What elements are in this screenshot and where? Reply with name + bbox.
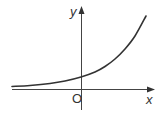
y-axis-label: y	[69, 4, 78, 19]
origin-label: O	[72, 91, 82, 106]
graph-canvas: y O x	[0, 0, 159, 117]
y-axis-arrow-icon	[79, 6, 85, 14]
x-axis-label: x	[145, 92, 153, 107]
exponential-graph: y O x	[0, 0, 159, 117]
exponential-curve	[12, 16, 146, 87]
